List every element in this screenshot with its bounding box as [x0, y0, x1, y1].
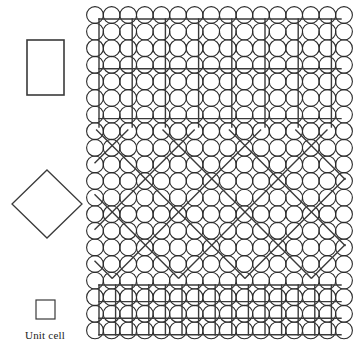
lattice-atom — [186, 239, 203, 256]
lattice-atom — [302, 206, 319, 223]
lattice-atom — [87, 305, 104, 322]
lattice-atom — [336, 305, 353, 322]
lattice-atom — [219, 123, 236, 140]
lattice-atom — [203, 23, 220, 40]
lattice-atom — [136, 40, 153, 57]
lattice-atom — [203, 123, 220, 140]
lattice-atom — [286, 156, 303, 173]
lattice-atom — [286, 73, 303, 90]
lattice-atom — [170, 123, 187, 140]
lattice-atom — [236, 189, 253, 206]
lattice-atom — [319, 239, 336, 256]
lattice-atom — [253, 123, 270, 140]
lattice-atom — [253, 305, 270, 322]
lattice-atom — [186, 56, 203, 73]
lattice-atom — [153, 23, 170, 40]
lattice-atom — [170, 106, 187, 123]
lattice-atom — [170, 322, 187, 339]
lattice-atom — [253, 206, 270, 223]
lattice-atom — [153, 90, 170, 107]
lattice-atom — [253, 23, 270, 40]
lattice-atom — [219, 7, 236, 24]
lattice-atom — [203, 40, 220, 57]
lattice-atom — [236, 123, 253, 140]
lattice-atom — [236, 322, 253, 339]
lattice-atom — [336, 206, 353, 223]
lattice-atom — [120, 239, 137, 256]
lattice-atom — [236, 272, 253, 289]
lattice-atom — [319, 106, 336, 123]
lattice-atom — [336, 322, 353, 339]
lattice-atom — [186, 256, 203, 273]
lattice-atom — [87, 106, 104, 123]
lattice-atom — [87, 222, 104, 239]
lattice-atom — [319, 90, 336, 107]
lattice-atom — [203, 90, 220, 107]
lattice-atom — [120, 106, 137, 123]
lattice-atom — [302, 56, 319, 73]
lattice-atom — [269, 239, 286, 256]
diamond-unit-cell — [12, 170, 82, 238]
lattice-atom — [103, 90, 120, 107]
lattice-atom — [203, 156, 220, 173]
lattice-atom — [153, 305, 170, 322]
lattice-atom — [319, 322, 336, 339]
lattice-atom — [286, 40, 303, 57]
lattice-atom — [336, 40, 353, 57]
lattice-atom — [302, 272, 319, 289]
lattice-atom — [87, 56, 104, 73]
lattice-atom — [286, 239, 303, 256]
lattice-atom — [153, 73, 170, 90]
lattice-atom — [302, 7, 319, 24]
lattice-atom — [103, 322, 120, 339]
lattice-atom — [302, 173, 319, 190]
lattice-atom — [302, 106, 319, 123]
lattice-atom — [286, 123, 303, 140]
lattice-atom — [336, 139, 353, 156]
lattice-atom — [219, 322, 236, 339]
lattice-atom — [319, 139, 336, 156]
lattice-atom — [269, 40, 286, 57]
lattice-atom — [319, 189, 336, 206]
lattice-atom — [170, 289, 187, 306]
lattice-atom — [136, 173, 153, 190]
lattice-atom — [219, 189, 236, 206]
lattice-atom — [153, 139, 170, 156]
lattice-atom — [236, 73, 253, 90]
lattice-atom — [153, 256, 170, 273]
lattice-atom — [136, 222, 153, 239]
lattice-atom — [136, 123, 153, 140]
lattice-atom — [269, 123, 286, 140]
lattice-atom — [120, 90, 137, 107]
lattice-atom — [103, 7, 120, 24]
lattice-atom — [186, 222, 203, 239]
lattice-atom — [286, 289, 303, 306]
lattice-atom — [170, 272, 187, 289]
lattice-atom — [87, 189, 104, 206]
lattice-atom — [302, 90, 319, 107]
lattice-atom — [319, 206, 336, 223]
lattice-atom — [170, 239, 187, 256]
lattice-atom — [269, 222, 286, 239]
lattice-atom — [269, 322, 286, 339]
lattice-atom — [103, 305, 120, 322]
lattice-atom — [269, 90, 286, 107]
lattice-atom — [186, 106, 203, 123]
lattice-atom — [286, 173, 303, 190]
lattice-atom — [87, 40, 104, 57]
lattice-atom — [87, 156, 104, 173]
lattice-atom — [103, 123, 120, 140]
lattice-atom — [286, 106, 303, 123]
lattice-atom — [302, 256, 319, 273]
lattice-atom — [336, 156, 353, 173]
lattice-atom — [319, 56, 336, 73]
lattice-atom — [136, 256, 153, 273]
lattice-atom — [286, 189, 303, 206]
lattice-atom — [136, 239, 153, 256]
lattice-atom — [336, 56, 353, 73]
lattice-atom — [170, 206, 187, 223]
lattice-atom — [87, 139, 104, 156]
lattice-atom — [236, 305, 253, 322]
lattice-atom — [87, 239, 104, 256]
lattice-atom — [286, 90, 303, 107]
